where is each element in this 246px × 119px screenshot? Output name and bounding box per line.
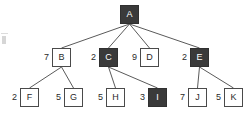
tree-node-g[interactable]: G	[64, 88, 83, 107]
tree-node-label-k: K	[230, 93, 236, 102]
scan-artifact-mark	[2, 36, 6, 44]
tree-node-f[interactable]: F	[20, 88, 39, 107]
tree-edge-c-i	[109, 67, 158, 88]
scan-artifact-tick	[1, 33, 8, 34]
tree-edge-e-j	[198, 67, 200, 88]
tree-node-label-j: J	[195, 93, 200, 102]
tree-node-i[interactable]: I	[148, 88, 167, 107]
node-value-f: 2	[5, 93, 17, 102]
node-value-c: 2	[84, 53, 96, 62]
tree-node-b[interactable]: B	[52, 48, 71, 67]
tree-edge-e-k	[200, 67, 234, 88]
tree-node-a[interactable]: A	[120, 5, 139, 24]
node-value-g: 5	[49, 93, 61, 102]
tree-diagram: A7B2C9D2E2F5G5H3I7J5K	[0, 0, 246, 119]
node-value-b: 7	[37, 53, 49, 62]
tree-node-label-g: G	[70, 93, 77, 102]
node-value-h: 5	[91, 93, 103, 102]
tree-node-label-d: D	[146, 53, 153, 62]
tree-node-c[interactable]: C	[99, 48, 118, 67]
tree-node-label-i: I	[156, 93, 159, 102]
node-value-j: 7	[173, 93, 185, 102]
tree-edge-c-h	[109, 67, 116, 88]
node-value-k: 5	[209, 93, 221, 102]
tree-node-e[interactable]: E	[190, 48, 209, 67]
tree-edge-b-f	[30, 67, 62, 88]
tree-node-j[interactable]: J	[188, 88, 207, 107]
tree-node-label-c: C	[105, 53, 112, 62]
tree-node-h[interactable]: H	[106, 88, 125, 107]
tree-node-label-a: A	[126, 10, 132, 19]
tree-edge-b-g	[62, 67, 74, 88]
tree-node-label-h: H	[112, 93, 119, 102]
node-value-e: 2	[175, 53, 187, 62]
tree-node-d[interactable]: D	[140, 48, 159, 67]
tree-node-label-f: F	[27, 93, 33, 102]
tree-node-k[interactable]: K	[224, 88, 243, 107]
tree-node-label-b: B	[58, 53, 64, 62]
node-value-d: 9	[125, 53, 137, 62]
node-value-i: 3	[133, 93, 145, 102]
tree-node-label-e: E	[196, 53, 202, 62]
